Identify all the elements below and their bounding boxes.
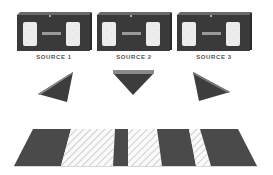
source-2-projector (97, 12, 172, 51)
source-1-projector (17, 12, 92, 51)
source-2-label: SOURCE 2 (97, 54, 171, 60)
diagram-canvas (0, 0, 273, 175)
right-prism (193, 72, 230, 101)
projection-diagram: SOURCE 1 SOURCE 2 SOURCE 3 (0, 0, 273, 175)
floor-band-dark-1 (14, 129, 71, 166)
floor-band-hatched-2 (128, 129, 162, 166)
source-3-projector (177, 12, 252, 51)
right-window-icon (66, 22, 80, 46)
source-1-label: SOURCE 1 (17, 54, 91, 60)
projection-floor (14, 129, 257, 167)
source-3-label: SOURCE 3 (177, 54, 251, 60)
center-prism (113, 70, 154, 95)
floor-band-dark-2 (113, 129, 128, 166)
left-window-icon (23, 22, 37, 46)
left-prism (38, 72, 73, 102)
